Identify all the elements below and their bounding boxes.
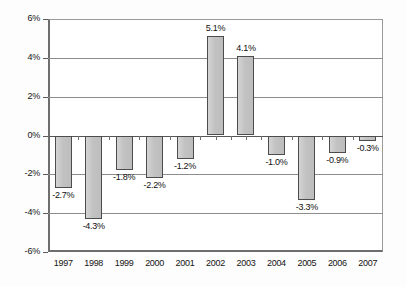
bar	[329, 136, 346, 153]
bar	[237, 56, 254, 136]
y-tick-label: 2%	[6, 92, 40, 101]
y-tick-mark	[43, 19, 48, 20]
data-label: -2.7%	[40, 191, 86, 200]
y-tick-mark	[43, 252, 48, 253]
bar	[177, 136, 194, 159]
zero-axis-minor-tick	[261, 136, 262, 140]
data-label: -4.3%	[71, 222, 117, 231]
bar	[207, 36, 224, 135]
bar	[359, 136, 376, 142]
zero-axis-minor-tick	[170, 136, 171, 140]
y-tick-label: -2%	[6, 169, 40, 178]
y-tick-mark	[43, 97, 48, 98]
bar	[298, 136, 315, 200]
zero-axis-minor-tick	[78, 136, 79, 140]
x-tick-label: 2007	[348, 258, 388, 268]
zero-axis-minor-tick	[353, 136, 354, 140]
bar	[85, 136, 102, 219]
data-label: -0.3%	[345, 144, 391, 153]
y-tick-label: -6%	[6, 247, 40, 256]
data-label: 4.1%	[223, 44, 269, 53]
y-tick-label: 4%	[6, 53, 40, 62]
data-label: -3.3%	[284, 203, 330, 212]
y-tick-label: 6%	[6, 14, 40, 23]
y-tick-mark	[43, 58, 48, 59]
zero-axis-minor-tick	[231, 136, 232, 140]
zero-axis-minor-tick	[292, 136, 293, 140]
zero-axis-minor-tick	[246, 136, 247, 140]
bar	[116, 136, 133, 171]
y-tick-mark	[43, 213, 48, 214]
data-label: 5.1%	[193, 24, 239, 33]
bar	[268, 136, 285, 155]
zero-axis-minor-tick	[322, 136, 323, 140]
y-tick-label: 0%	[6, 131, 40, 140]
data-label: -2.2%	[132, 181, 178, 190]
y-tick-label: -4%	[6, 208, 40, 217]
zero-axis-minor-tick	[216, 136, 217, 140]
data-label: -1.0%	[253, 158, 299, 167]
data-label: -0.9%	[314, 156, 360, 165]
y-tick-mark	[43, 174, 48, 175]
zero-axis-minor-tick	[200, 136, 201, 140]
bar	[146, 136, 163, 179]
bar	[55, 136, 72, 188]
zero-axis-minor-tick	[139, 136, 140, 140]
data-label: -1.2%	[162, 162, 208, 171]
zero-axis-minor-tick	[109, 136, 110, 140]
bar-chart: 6%4%2%0%-2%-4%-6% -2.7%-4.3%-1.8%-2.2%-1…	[0, 0, 407, 287]
zero-axis-minor-tick	[48, 136, 49, 140]
